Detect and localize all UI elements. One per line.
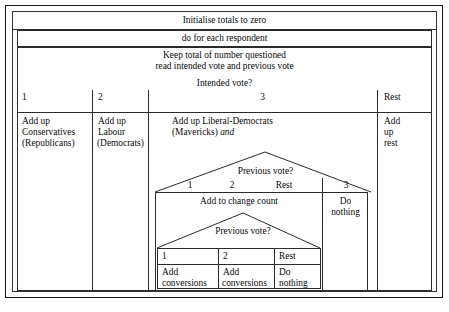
branch-2-line-2: Labour xyxy=(95,127,148,138)
structogram-canvas: Initialise totals to zero do for each re… xyxy=(0,0,449,312)
inner-cell-2-line-2: conversions xyxy=(219,278,277,289)
decision-middle-question: Previous vote? xyxy=(163,166,368,177)
inner-cell-1-line-1: Add xyxy=(159,267,219,278)
rule-outer-col-3-rest xyxy=(377,90,378,291)
decision-middle-right-line-2: nothing xyxy=(324,207,367,218)
decision-middle-branch-label-2: 2 xyxy=(220,180,244,191)
decision-outer-branch-label-rest: Rest xyxy=(381,92,431,103)
rule-outer-col-1-2 xyxy=(92,90,93,291)
decision-inner-branch-label-2: 2 xyxy=(220,251,273,262)
inner-cell-rest-line-2: nothing xyxy=(276,278,322,289)
branch-1-line-3: (Republicans) xyxy=(19,138,91,149)
decision-middle-left-text: Add to change count xyxy=(157,196,321,207)
decision-middle-branch-label-1: 1 xyxy=(178,180,202,191)
rule-under-inner-branch-labels xyxy=(158,264,320,265)
branch-3-line-2-text: (Mavericks) xyxy=(172,127,220,137)
initialise-row: Initialise totals to zero xyxy=(13,12,436,29)
branch-2-line-1: Add up xyxy=(95,116,148,127)
decision-inner-branch-label-1: 1 xyxy=(159,251,217,262)
decision-middle-right-line-1: Do xyxy=(324,196,367,207)
decision-inner-branch-label-rest: Rest xyxy=(276,251,320,262)
branch-2-line-3: (Democrats) xyxy=(94,138,150,149)
branch-3-line-2: (Mavericks) and xyxy=(172,127,372,138)
branch-rest-line-3: rest xyxy=(381,138,431,149)
branch-3-emphasis-and: and xyxy=(220,127,234,137)
decision-outer-branch-label-1: 1 xyxy=(19,92,89,103)
rule-outer-col-2-3 xyxy=(148,90,149,291)
branch-rest-line-1: Add xyxy=(381,116,431,127)
decision-inner-question: Previous vote? xyxy=(163,226,323,237)
branch-1-line-1: Add up xyxy=(19,116,91,127)
rule-under-outer-branch-labels xyxy=(18,112,431,113)
loop-label: do for each respondent xyxy=(18,31,431,46)
branch-rest-line-2: up xyxy=(381,127,431,138)
inner-cell-1-line-2: conversions xyxy=(159,278,221,289)
inner-cell-rest-line-1: Do xyxy=(276,267,320,278)
decision-middle-branch-label-rest: Rest xyxy=(264,180,304,191)
inner-cell-2-line-1: Add xyxy=(220,267,275,278)
process-line-1: Keep total of number questioned xyxy=(18,50,431,61)
decision-outer-branch-label-2: 2 xyxy=(95,92,145,103)
decision-outer-question: Intended vote? xyxy=(18,78,431,89)
branch-3-line-1: Add up Liberal-Democrats xyxy=(172,116,372,127)
decision-outer-branch-label-3: 3 xyxy=(151,92,374,103)
branch-1-line-2: Conservatives xyxy=(19,127,91,138)
process-line-2: read intended vote and previous vote xyxy=(18,61,431,72)
decision-middle-branch-label-3: 3 xyxy=(332,180,360,191)
